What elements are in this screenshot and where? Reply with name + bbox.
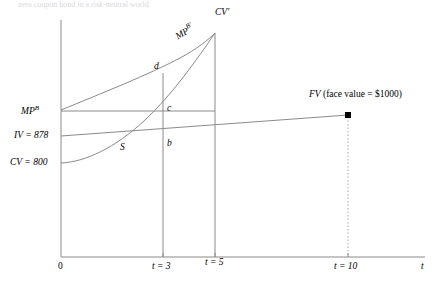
label-point-b: b (167, 139, 172, 149)
label-cv-prime: CV′ (215, 8, 229, 18)
x-tick-label-0: 0 (58, 262, 63, 272)
label-fv: FV (face value = $1000) (309, 90, 402, 100)
label-point-s: S (120, 143, 125, 153)
fv-point-marker (345, 112, 351, 118)
x-axis-name: t (421, 262, 424, 272)
label-iv: IV = 878 (14, 131, 48, 141)
figure-container: zero coupon bond in a risk-neutral world… (0, 0, 438, 282)
cv-curve (61, 33, 215, 163)
iv-line (61, 115, 348, 136)
plot-canvas (0, 0, 438, 282)
x-tick-label-t5: t = 5 (205, 258, 224, 268)
label-cv: CV = 800 (10, 158, 47, 168)
label-point-c: c (167, 104, 171, 114)
label-point-d: d (154, 62, 159, 72)
label-mp-b: MPB (21, 105, 39, 117)
x-tick-label-t3: t = 3 (152, 262, 171, 272)
x-tick-label-t10: t = 10 (334, 262, 357, 272)
mpb-curve (61, 33, 215, 110)
